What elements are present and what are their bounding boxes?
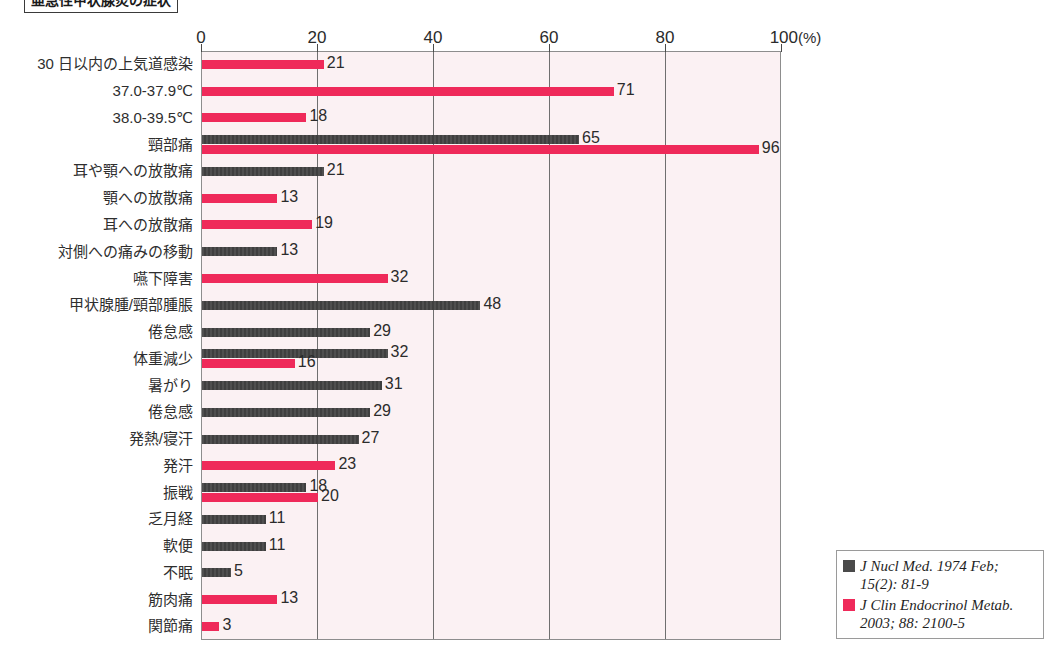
chart-row: 37.0-37.9℃71	[0, 78, 1054, 105]
row-label: 顎への放散痛	[103, 190, 193, 205]
bar-pink	[202, 60, 324, 69]
bar-pink	[202, 461, 335, 470]
chart-row: 30 日以内の上気道感染21	[0, 51, 1054, 78]
bar-pink	[202, 113, 306, 122]
legend-swatch-pink	[843, 599, 855, 611]
chart-row: 甲状腺腫/頸部腫脹48	[0, 292, 1054, 319]
bar-dark	[202, 435, 359, 444]
legend-item: J Nucl Med. 1974 Feb;15(2): 81-9	[843, 557, 1037, 593]
row-label: 発汗	[163, 458, 193, 473]
bar-pink	[202, 359, 295, 368]
chart-row: 耳への放散痛19	[0, 212, 1054, 239]
chart-row: 対側への痛みの移動13	[0, 238, 1054, 265]
chart-row: 頸部痛6596	[0, 131, 1054, 158]
bar-value-label: 3	[222, 617, 231, 633]
row-label: 振戦	[163, 485, 193, 500]
bar-value-label: 16	[298, 354, 316, 370]
x-tick-mark-20	[317, 44, 318, 52]
chart-row: 耳や顎への放散痛21	[0, 158, 1054, 185]
bar-value-label: 23	[338, 456, 356, 472]
bar-value-label: 13	[280, 189, 298, 205]
bar-dark	[202, 408, 370, 417]
row-label: 耳や顎への放散痛	[73, 163, 193, 178]
chart-row: 嚥下障害32	[0, 265, 1054, 292]
bar-pink	[202, 220, 312, 229]
legend-label-line1: J Clin Endocrinol Metab.	[860, 596, 1013, 614]
row-label: 軟便	[163, 538, 193, 553]
bar-value-label: 32	[391, 269, 409, 285]
bar-dark	[202, 167, 324, 176]
legend-box: J Nucl Med. 1974 Feb;15(2): 81-9J Clin E…	[836, 550, 1044, 639]
legend-label-line2: 2003; 88: 2100-5	[860, 614, 1013, 632]
chart-row: 顎への放散痛13	[0, 185, 1054, 212]
row-label: 体重減少	[133, 351, 193, 366]
bar-dark	[202, 247, 277, 256]
legend-label: J Clin Endocrinol Metab.2003; 88: 2100-5	[860, 596, 1013, 632]
bar-pink	[202, 87, 614, 96]
x-tick-label-100: 100(%)	[770, 28, 822, 48]
row-label: 対側への痛みの移動	[58, 244, 193, 259]
legend-item: J Clin Endocrinol Metab.2003; 88: 2100-5	[843, 596, 1037, 632]
chart-row: 振戦1820	[0, 479, 1054, 506]
bar-dark	[202, 515, 266, 524]
chart-row: 体重減少3216	[0, 345, 1054, 372]
bar-value-label: 65	[582, 130, 600, 146]
bar-value-label: 48	[483, 296, 501, 312]
legend-swatch-dark	[843, 560, 855, 572]
x-tick-mark-0	[201, 44, 202, 52]
bar-value-label: 31	[385, 376, 403, 392]
chart-row: 発熱/寝汗27	[0, 426, 1054, 453]
bar-value-label: 27	[362, 430, 380, 446]
bar-value-label: 20	[321, 488, 339, 504]
row-label: 筋肉痛	[148, 592, 193, 607]
chart-row: 倦怠感29	[0, 319, 1054, 346]
bar-pink	[202, 274, 388, 283]
bar-pink	[202, 595, 277, 604]
bar-value-label: 5	[234, 563, 243, 579]
bar-pink	[202, 493, 318, 502]
row-label: 乏月経	[148, 511, 193, 526]
chart-row: 暑がり31	[0, 372, 1054, 399]
legend-label-line2: 15(2): 81-9	[860, 575, 999, 593]
bar-dark	[202, 349, 388, 358]
bar-value-label: 11	[269, 537, 286, 553]
row-label: 耳への放散痛	[103, 217, 193, 232]
bar-dark	[202, 483, 306, 492]
row-label: 関節痛	[148, 618, 193, 633]
row-label: 37.0-37.9℃	[113, 83, 193, 98]
bar-dark	[202, 542, 266, 551]
row-label: 不眠	[163, 565, 193, 580]
x-tick-mark-100	[781, 44, 782, 52]
bar-value-label: 19	[315, 215, 333, 231]
chart-row: 倦怠感29	[0, 399, 1054, 426]
legend-label-line1: J Nucl Med. 1974 Feb;	[860, 557, 999, 575]
bar-dark	[202, 328, 370, 337]
bar-value-label: 13	[280, 242, 298, 258]
bar-value-label: 29	[373, 403, 391, 419]
bar-value-label: 11	[269, 510, 286, 526]
row-label: 頸部痛	[148, 137, 193, 152]
bar-value-label: 32	[391, 344, 409, 360]
row-label: 嚥下障害	[133, 271, 193, 286]
bar-value-label: 21	[327, 162, 345, 178]
row-label: 38.0-39.5℃	[113, 110, 193, 125]
bar-value-label: 13	[280, 590, 298, 606]
row-label: 倦怠感	[148, 404, 193, 419]
bar-dark	[202, 135, 579, 144]
bar-value-label: 21	[327, 55, 345, 71]
bar-value-label: 18	[309, 108, 327, 124]
row-label: 倦怠感	[148, 324, 193, 339]
chart-row: 発汗23	[0, 452, 1054, 479]
bar-dark	[202, 301, 480, 310]
bar-pink	[202, 145, 759, 154]
bar-pink	[202, 622, 219, 631]
chart-row: 乏月経11	[0, 506, 1054, 533]
row-label: 30 日以内の上気道感染	[37, 56, 193, 71]
x-axis-unit-label: (%)	[798, 29, 821, 46]
bar-dark	[202, 381, 382, 390]
row-label: 甲状腺腫/頸部腫脹	[69, 297, 193, 312]
row-label: 発熱/寝汗	[129, 431, 193, 446]
legend-label: J Nucl Med. 1974 Feb;15(2): 81-9	[860, 557, 999, 593]
bar-value-label: 71	[617, 82, 635, 98]
bar-value-label: 29	[373, 323, 391, 339]
